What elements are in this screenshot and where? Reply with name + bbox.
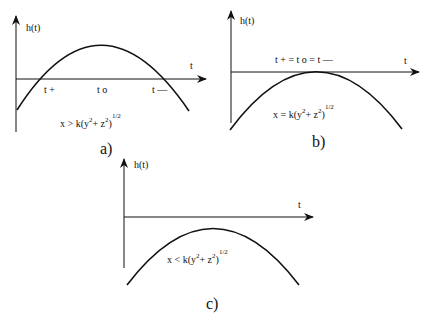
condition-c: x < k(y2+ z2)1/2 bbox=[167, 248, 228, 266]
panel-c: h(t) t x < k(y2+ z2)1/2 c) bbox=[124, 159, 313, 313]
caption-c: c) bbox=[206, 295, 218, 313]
svg-text:x = k(y2+ z2)1/2: x = k(y2+ z2)1/2 bbox=[273, 103, 334, 121]
t-label-c: t bbox=[298, 199, 301, 210]
roots-equal-b: t + = t o = t — bbox=[275, 54, 334, 65]
curve-a bbox=[17, 45, 189, 111]
root-minus-a: t — bbox=[152, 84, 168, 95]
h-label-b: h(t) bbox=[240, 15, 254, 27]
curve-b bbox=[230, 72, 402, 130]
root-zero-a: t o bbox=[97, 84, 107, 95]
diagram-canvas: h(t) t t + t o t — x > k(y2+ z2)1/2 a) h… bbox=[0, 0, 431, 323]
condition-a: x > k(y2+ z2)1/2 bbox=[60, 112, 121, 130]
svg-text:x < k(y2+ z2)1/2: x < k(y2+ z2)1/2 bbox=[167, 248, 228, 266]
t-label-a: t bbox=[190, 60, 193, 71]
t-label-b: t bbox=[404, 55, 407, 66]
panel-a: h(t) t t + t o t — x > k(y2+ z2)1/2 a) bbox=[16, 16, 206, 158]
root-plus-a: t + bbox=[44, 84, 55, 95]
h-label-a: h(t) bbox=[26, 22, 40, 34]
caption-a: a) bbox=[100, 140, 112, 158]
condition-b: x = k(y2+ z2)1/2 bbox=[273, 103, 334, 121]
caption-b: b) bbox=[312, 133, 325, 151]
h-label-c: h(t) bbox=[134, 159, 148, 171]
panel-b: h(t) t t + = t o = t — x = k(y2+ z2)1/2 … bbox=[230, 11, 419, 151]
svg-text:x > k(y2+ z2)1/2: x > k(y2+ z2)1/2 bbox=[60, 112, 121, 130]
